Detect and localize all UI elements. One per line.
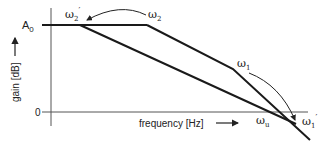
y-axis-label: gain [dB] bbox=[10, 62, 21, 102]
compensated-response-curve bbox=[80, 25, 296, 124]
label-omega1-prime: ω1′ bbox=[302, 112, 317, 130]
shift-arrow-omega2 bbox=[87, 10, 146, 20]
label-omega2: ω2 bbox=[148, 8, 161, 23]
y-tick-a0: A0 bbox=[22, 19, 34, 34]
label-omega2-prime: ω2′ bbox=[65, 5, 80, 23]
y-tick-zero: 0 bbox=[35, 107, 41, 118]
label-omega-u: ωu bbox=[256, 114, 270, 129]
bode-diagram: A0 0 gain [dB] frequency [Hz] ω2′ ω2 ω1 … bbox=[0, 0, 325, 149]
x-axis-label: frequency [Hz] bbox=[139, 118, 204, 129]
label-omega1: ω1 bbox=[237, 57, 250, 72]
